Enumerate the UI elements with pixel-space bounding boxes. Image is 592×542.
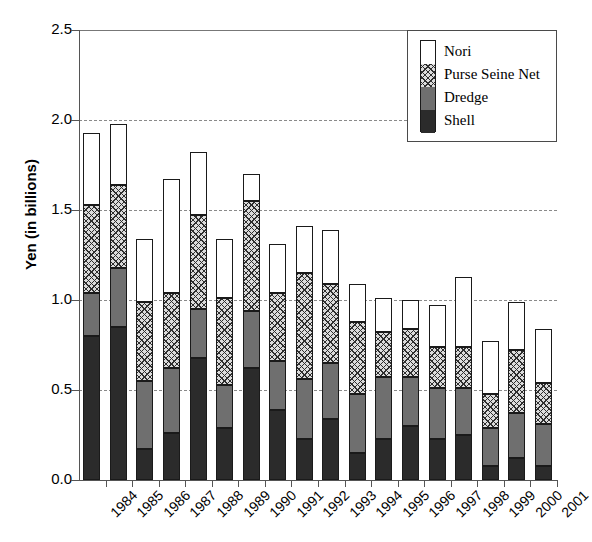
bar-segment[interactable] xyxy=(429,388,446,438)
bar-segment[interactable] xyxy=(83,205,100,293)
bar-segment[interactable] xyxy=(136,449,153,480)
stacked-bar[interactable] xyxy=(136,30,153,480)
bar-segment[interactable] xyxy=(349,453,366,480)
stacked-bar[interactable] xyxy=(190,30,207,480)
bar-segment[interactable] xyxy=(508,413,525,458)
bar-segment[interactable] xyxy=(136,381,153,449)
bar-segment[interactable] xyxy=(269,293,286,361)
bar-segment[interactable] xyxy=(455,388,472,435)
legend-label[interactable]: Shell xyxy=(444,109,475,132)
bar-segment[interactable] xyxy=(429,305,446,346)
bar-segment[interactable] xyxy=(243,368,260,480)
stacked-bar[interactable] xyxy=(269,30,286,480)
bar-segment[interactable] xyxy=(110,185,127,268)
bar-segment[interactable] xyxy=(296,439,313,480)
x-tick-mark xyxy=(398,480,399,487)
bar-segment[interactable] xyxy=(110,327,127,480)
bar-segment[interactable] xyxy=(243,311,260,369)
bar-segment[interactable] xyxy=(216,239,233,298)
bar-segment[interactable] xyxy=(269,361,286,410)
stacked-bar[interactable] xyxy=(110,30,127,480)
bar-segment[interactable] xyxy=(402,377,419,426)
bar-segment[interactable] xyxy=(375,439,392,480)
bar-segment[interactable] xyxy=(482,394,499,428)
bar-segment[interactable] xyxy=(190,309,207,358)
bar-segment[interactable] xyxy=(243,201,260,311)
x-tick-mark xyxy=(159,480,160,487)
bar-segment[interactable] xyxy=(243,174,260,201)
stacked-bar[interactable] xyxy=(296,30,313,480)
bar-segment[interactable] xyxy=(455,435,472,480)
bar-segment[interactable] xyxy=(163,433,180,480)
bar-segment[interactable] xyxy=(136,302,153,381)
bar-segment[interactable] xyxy=(402,300,419,329)
bar-segment[interactable] xyxy=(269,244,286,293)
stacked-bar[interactable] xyxy=(375,30,392,480)
bar-segment[interactable] xyxy=(535,424,552,465)
x-tick-mark xyxy=(106,480,107,487)
bar-segment[interactable] xyxy=(375,298,392,332)
x-tick-mark xyxy=(477,480,478,487)
stacked-bar[interactable] xyxy=(83,30,100,480)
bar-segment[interactable] xyxy=(402,426,419,480)
bar-segment[interactable] xyxy=(83,133,100,205)
stacked-bar[interactable] xyxy=(349,30,366,480)
bar-segment[interactable] xyxy=(508,302,525,351)
x-tick-mark xyxy=(291,480,292,487)
bar-segment[interactable] xyxy=(375,332,392,377)
bar-segment[interactable] xyxy=(535,383,552,424)
bar-segment[interactable] xyxy=(349,322,366,394)
bar-segment[interactable] xyxy=(216,298,233,384)
bar-segment[interactable] xyxy=(110,124,127,185)
bar-segment[interactable] xyxy=(482,466,499,480)
bar-segment[interactable] xyxy=(482,428,499,466)
legend-label[interactable]: Purse Seine Net xyxy=(444,63,540,86)
bar-segment[interactable] xyxy=(83,293,100,336)
bar-segment[interactable] xyxy=(190,215,207,309)
bar-segment[interactable] xyxy=(455,347,472,388)
bar-segment[interactable] xyxy=(269,410,286,480)
bar-segment[interactable] xyxy=(455,277,472,347)
x-tick-mark xyxy=(132,480,133,487)
bar-segment[interactable] xyxy=(163,368,180,433)
legend-label[interactable]: Nori xyxy=(444,40,472,63)
bar-segment[interactable] xyxy=(296,226,313,273)
stacked-bar[interactable] xyxy=(322,30,339,480)
bar-segment[interactable] xyxy=(322,419,339,480)
bar-segment[interactable] xyxy=(322,363,339,419)
bar-segment[interactable] xyxy=(190,358,207,480)
bar-segment[interactable] xyxy=(322,284,339,363)
bar-segment[interactable] xyxy=(216,385,233,428)
stacked-bar[interactable] xyxy=(216,30,233,480)
bar-segment[interactable] xyxy=(296,379,313,438)
bar-segment[interactable] xyxy=(535,329,552,383)
x-tick-mark xyxy=(212,480,213,487)
bar-segment[interactable] xyxy=(429,347,446,388)
bar-segment[interactable] xyxy=(482,341,499,393)
bar-segment[interactable] xyxy=(216,428,233,480)
bar-segment[interactable] xyxy=(163,179,180,292)
bar-segment[interactable] xyxy=(349,394,366,453)
bar-segment[interactable] xyxy=(136,239,153,302)
x-tick-mark xyxy=(424,480,425,487)
bar-segment[interactable] xyxy=(83,336,100,480)
bar-segment[interactable] xyxy=(508,458,525,480)
legend-swatch-dredge xyxy=(421,87,435,110)
bar-segment[interactable] xyxy=(535,466,552,480)
x-tick-mark xyxy=(530,480,531,487)
bar-segment[interactable] xyxy=(429,439,446,480)
bar-segment[interactable] xyxy=(296,273,313,379)
legend-label[interactable]: Dredge xyxy=(444,86,488,109)
stacked-bar[interactable] xyxy=(163,30,180,480)
bar-segment[interactable] xyxy=(349,284,366,322)
bar-segment[interactable] xyxy=(110,268,127,327)
bar-segment[interactable] xyxy=(402,329,419,378)
bar-segment[interactable] xyxy=(375,377,392,438)
stacked-bar[interactable] xyxy=(243,30,260,480)
bar-segment[interactable] xyxy=(190,152,207,215)
legend-swatch-stack xyxy=(420,40,436,132)
bar-segment[interactable] xyxy=(322,230,339,284)
bar-segment[interactable] xyxy=(163,293,180,369)
bar-segment[interactable] xyxy=(508,350,525,413)
